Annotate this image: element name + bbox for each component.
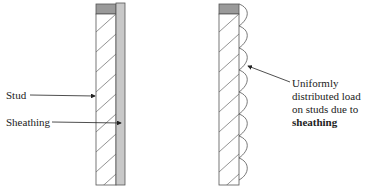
stud-top-cap [219,4,239,14]
distributed-load-curve [239,4,247,180]
stud-top-cap [96,4,116,14]
sheathing-label: Sheathing [6,116,50,128]
annotation-line-2: distributed load [292,90,361,102]
stud-body [219,14,239,185]
stud-label: Stud [6,89,26,101]
stud-body [96,14,116,185]
sheathing-panel [116,3,125,185]
annotation-line-3: on studs due to [292,103,358,115]
load-arrow [248,66,290,82]
annotation-line-4: sheathing [292,116,337,128]
right-stud [219,4,239,192]
left-stud [96,4,116,192]
annotation-line-1: Uniformly [292,77,338,89]
stud-arrow [30,95,95,96]
